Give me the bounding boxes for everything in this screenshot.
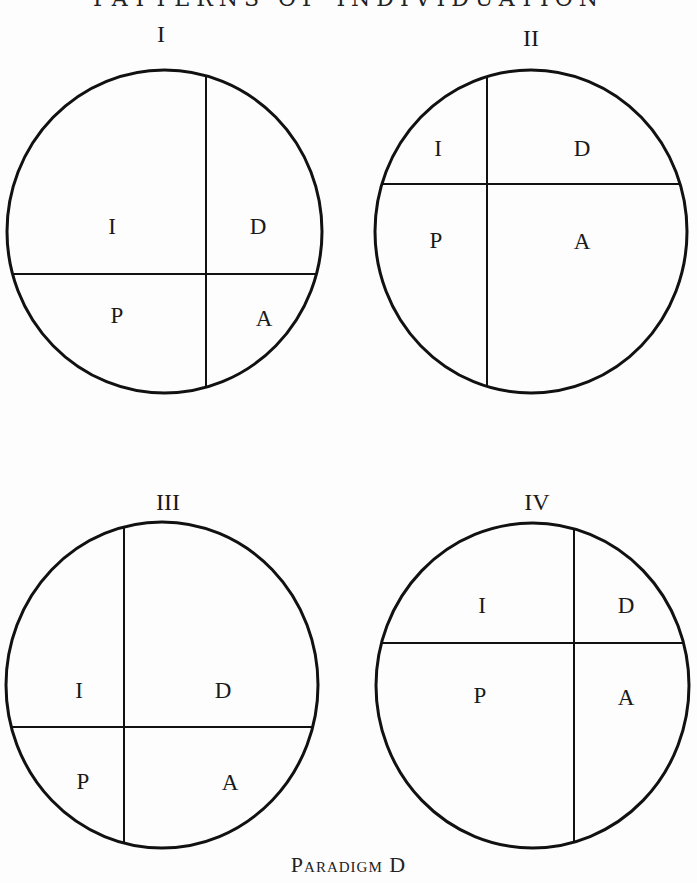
paradigm-d-diagrams: IIDPAIIIDPAIIIIDPAIVIDPA — [0, 0, 697, 883]
quadrant-label-a: A — [618, 685, 635, 710]
quadrant-label-i: I — [478, 593, 486, 618]
quadrant-label-p: P — [77, 769, 90, 794]
diagram-ii: IIIDPA — [370, 25, 692, 398]
circle-outline — [376, 523, 689, 848]
quadrant-label-i: I — [75, 678, 83, 703]
quadrant-label-p: P — [111, 303, 124, 328]
quadrant-label-p: P — [430, 228, 443, 253]
book-page: PATTERNS OF INDIVIDUATION IIDPAIIIDPAIII… — [0, 0, 697, 883]
diagram-title: II — [523, 25, 539, 51]
quadrant-label-d: D — [618, 593, 635, 618]
quadrant-label-i: I — [434, 136, 442, 161]
quadrant-label-a: A — [256, 306, 273, 331]
figure-caption: Paradigm D — [0, 852, 697, 878]
quadrant-label-d: D — [574, 136, 591, 161]
circle-outline — [375, 70, 687, 393]
diagram-i: IIDPA — [2, 21, 327, 398]
diagram-title: IV — [524, 489, 550, 515]
circle-outline — [7, 70, 322, 393]
quadrant-label-p: P — [474, 683, 487, 708]
diagram-title: I — [157, 21, 165, 47]
diagram-iv: IVIDPA — [371, 489, 694, 853]
circle-outline — [6, 522, 318, 848]
quadrant-label-d: D — [215, 678, 232, 703]
diagram-title: III — [156, 489, 180, 515]
quadrant-label-a: A — [222, 770, 239, 795]
quadrant-label-i: I — [108, 214, 116, 239]
diagram-iii: IIIIDPA — [1, 489, 323, 853]
quadrant-label-d: D — [250, 214, 267, 239]
quadrant-label-a: A — [574, 229, 591, 254]
